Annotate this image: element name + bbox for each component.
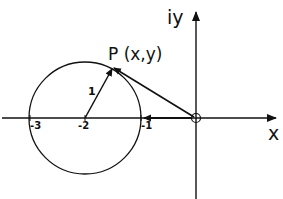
origin-to-p-vector — [114, 68, 194, 117]
point-p-label: P (x,y) — [108, 46, 162, 63]
tick-label-minus-1: -1 — [141, 121, 152, 131]
tick-label-minus-2: -2 — [78, 121, 89, 131]
radius-label: 1 — [88, 86, 96, 97]
complex-plane-diagram — [0, 0, 283, 199]
imaginary-axis-label: iy — [167, 8, 184, 27]
real-axis-label: x — [268, 124, 279, 143]
tick-label-minus-3: -3 — [30, 121, 41, 131]
